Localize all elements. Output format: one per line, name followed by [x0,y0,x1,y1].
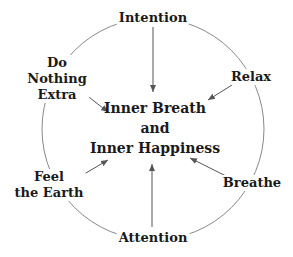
diagram-canvas: Intention Relax Breathe Attention Feel t… [0,0,293,257]
center-label-line: Inner Breath [90,98,220,118]
node-label: Breathe [223,175,281,190]
arrow-breathe [190,158,226,176]
node-label-line: the Earth [15,185,84,201]
node-label: Intention [119,10,187,25]
node-label: Attention [119,230,188,245]
center-node: Inner Breath and Inner Happiness [88,98,222,158]
center-label-line: Inner Happiness [90,138,220,158]
node-label-line: Extra [27,87,87,103]
node-relax: Relax [229,69,273,85]
node-label-line: Feel [15,169,84,185]
node-label-line: Nothing [27,71,87,87]
node-breathe: Breathe [221,175,283,191]
node-label: Relax [231,69,271,84]
node-do-nothing-extra: Do Nothing Extra [25,55,89,103]
node-attention: Attention [117,230,190,246]
center-label-line: and [90,118,220,138]
node-label-line: Do [27,55,87,71]
node-feel-the-earth: Feel the Earth [13,169,86,201]
node-intention: Intention [117,10,189,26]
